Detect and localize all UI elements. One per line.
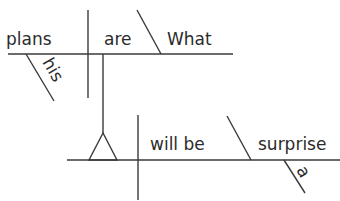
predicate-nominative-slant — [227, 116, 251, 160]
word-surprise: surprise — [258, 134, 326, 154]
word-his: his — [39, 54, 69, 85]
word-are: are — [104, 29, 132, 49]
word-will-be: will be — [150, 134, 205, 154]
pedestal-triangle — [89, 133, 117, 160]
sentence-diagram: plans are What his will be surprise a — [0, 0, 340, 201]
complement-slant — [137, 10, 161, 54]
word-what: What — [167, 29, 212, 49]
word-plans: plans — [6, 29, 52, 49]
